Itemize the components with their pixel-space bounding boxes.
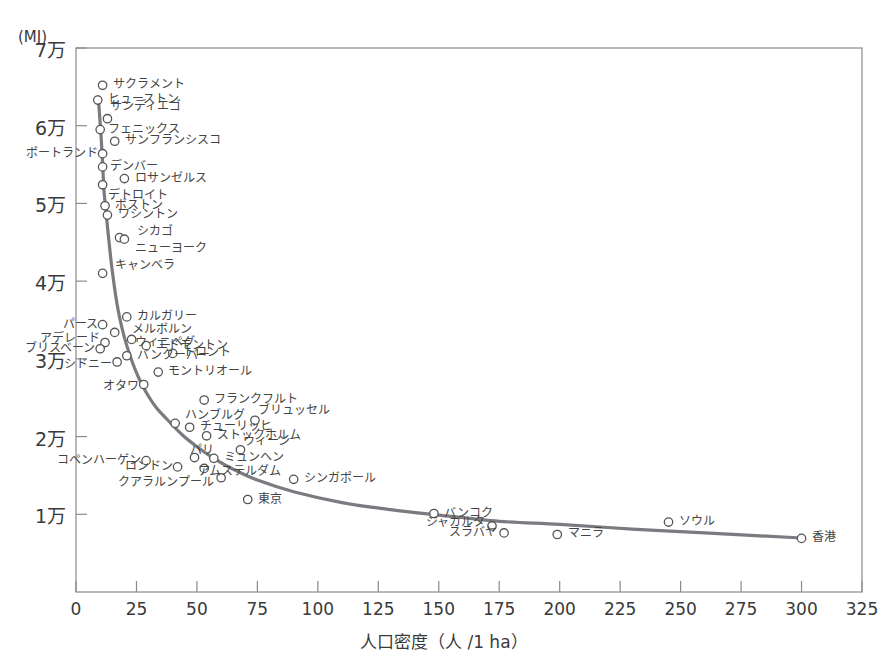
data-point-label: シドニー bbox=[0, 358, 112, 370]
x-axis-tick-label: 225 bbox=[590, 599, 650, 619]
data-point-marker[interactable] bbox=[111, 328, 119, 336]
x-axis-tick-label: 125 bbox=[348, 599, 408, 619]
data-point-marker[interactable] bbox=[244, 495, 252, 503]
x-axis-tick-label: 175 bbox=[469, 599, 529, 619]
data-point-marker[interactable] bbox=[123, 313, 131, 321]
data-point-label: ニューヨーク bbox=[135, 242, 207, 254]
data-point-label: サンフランシスコ bbox=[125, 134, 221, 146]
data-point-marker[interactable] bbox=[101, 202, 109, 210]
data-point-label: トロント bbox=[183, 346, 231, 358]
data-point-marker[interactable] bbox=[94, 96, 102, 104]
data-point-marker[interactable] bbox=[123, 352, 131, 360]
data-point-label: ミュンヘン bbox=[224, 451, 284, 463]
data-point-label: メルボルン bbox=[132, 323, 192, 335]
data-point-label: サンディエゴ bbox=[110, 100, 181, 112]
data-point-marker[interactable] bbox=[98, 269, 106, 277]
data-point-marker[interactable] bbox=[140, 380, 148, 388]
data-point-label: サクラメント bbox=[113, 78, 185, 90]
data-point-marker[interactable] bbox=[98, 149, 106, 157]
x-axis-tick-label: 200 bbox=[530, 599, 590, 619]
data-point-label: ロサンゼルス bbox=[135, 172, 207, 184]
data-point-label: ブリスベーン bbox=[0, 342, 95, 354]
data-point-marker[interactable] bbox=[96, 345, 104, 353]
data-point-marker[interactable] bbox=[553, 530, 561, 538]
data-point-marker[interactable] bbox=[797, 534, 805, 542]
data-point-marker[interactable] bbox=[120, 235, 128, 243]
data-point-label: スラバヤ bbox=[0, 526, 497, 538]
x-axis-tick-label: 0 bbox=[46, 599, 106, 619]
data-point-label: ブリュッセル bbox=[258, 404, 330, 416]
data-point-marker[interactable] bbox=[103, 211, 111, 219]
x-axis-tick-label: 300 bbox=[772, 599, 832, 619]
data-point-label: キャンベラ bbox=[115, 259, 175, 271]
data-point-label: ウィーン bbox=[243, 435, 290, 447]
chart-canvas: (MJ) 1万2万3万4万5万6万7万025507510012515017520… bbox=[0, 0, 890, 667]
x-axis-tick-label: 250 bbox=[651, 599, 711, 619]
data-point-label: ワシントン bbox=[118, 208, 178, 220]
data-point-marker[interactable] bbox=[200, 396, 208, 404]
x-axis-tick-label: 75 bbox=[227, 599, 287, 619]
data-point-marker[interactable] bbox=[98, 81, 106, 89]
data-point-label: 東京 bbox=[258, 493, 282, 505]
data-point-marker[interactable] bbox=[185, 423, 193, 431]
data-point-marker[interactable] bbox=[98, 163, 106, 171]
y-axis-tick-label: 2万 bbox=[14, 424, 66, 451]
data-point-label: ロンドン bbox=[0, 460, 173, 472]
y-axis-tick-label: 6万 bbox=[14, 113, 66, 140]
y-axis-tick-label: 5万 bbox=[14, 190, 66, 217]
x-axis-title: 人口密度（人 /1 ha） bbox=[360, 628, 528, 653]
data-point-marker[interactable] bbox=[173, 463, 181, 471]
data-point-label: クアラルンプール bbox=[0, 476, 214, 488]
x-axis-tick-label: 100 bbox=[288, 599, 348, 619]
data-point-label: パース bbox=[0, 318, 98, 330]
data-point-label: モントリオール bbox=[168, 365, 252, 377]
y-axis-tick-label: 4万 bbox=[14, 268, 66, 295]
data-point-label: マニラ bbox=[568, 527, 604, 539]
data-point-label: パリ bbox=[190, 444, 214, 456]
data-point-label: ポートランド bbox=[0, 147, 98, 159]
x-axis-tick-label: 50 bbox=[167, 599, 227, 619]
data-point-label: カルガリー bbox=[137, 310, 197, 322]
y-axis-tick-label: 7万 bbox=[14, 35, 66, 62]
data-point-label: 香港 bbox=[812, 531, 836, 543]
data-point-marker[interactable] bbox=[96, 125, 104, 133]
data-point-marker[interactable] bbox=[98, 181, 106, 189]
data-point-marker[interactable] bbox=[154, 368, 162, 376]
data-point-label: ソウル bbox=[679, 515, 715, 527]
x-axis-tick-label: 150 bbox=[409, 599, 469, 619]
data-point-marker[interactable] bbox=[289, 475, 297, 483]
data-point-marker[interactable] bbox=[98, 320, 106, 328]
x-axis-tick-label: 325 bbox=[832, 599, 890, 619]
data-point-label: シカゴ bbox=[137, 225, 173, 237]
data-point-marker[interactable] bbox=[500, 529, 508, 537]
data-point-marker[interactable] bbox=[171, 419, 179, 427]
data-point-marker[interactable] bbox=[664, 518, 672, 526]
x-axis-tick-label: 25 bbox=[106, 599, 166, 619]
x-axis-tick-label: 275 bbox=[711, 599, 771, 619]
data-point-marker[interactable] bbox=[111, 137, 119, 145]
data-point-marker[interactable] bbox=[113, 358, 121, 366]
data-point-label: オタワ bbox=[0, 380, 139, 392]
data-point-marker[interactable] bbox=[120, 174, 128, 182]
data-point-label: シンガポール bbox=[304, 472, 376, 484]
